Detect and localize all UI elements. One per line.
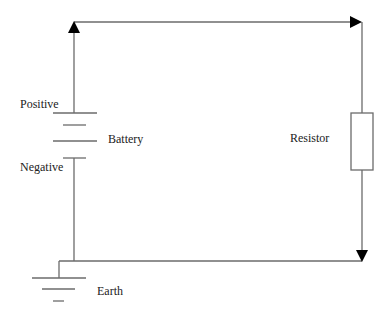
label-negative: Negative <box>20 160 63 174</box>
label-battery: Battery <box>108 132 143 146</box>
wires <box>59 22 362 278</box>
arrow-right-icon <box>350 16 362 28</box>
arrow-up-icon <box>68 21 80 33</box>
arrow-down-icon <box>356 250 368 262</box>
label-positive: Positive <box>20 97 59 111</box>
circuit-diagram <box>0 0 392 317</box>
label-resistor: Resistor <box>290 131 329 145</box>
label-earth: Earth <box>97 284 123 298</box>
battery-symbol <box>53 113 97 158</box>
resistor-symbol <box>351 113 373 170</box>
earth-symbol <box>32 278 86 301</box>
